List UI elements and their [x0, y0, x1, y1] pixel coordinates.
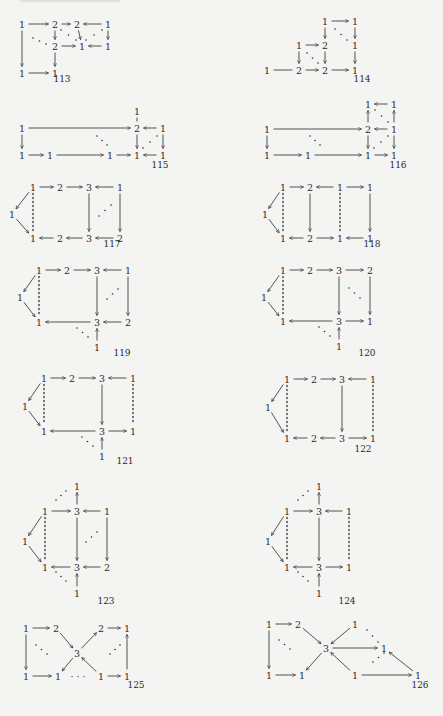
diagram-node: 1: [296, 40, 302, 51]
diagram-node: 2: [311, 374, 317, 385]
arrow-edge: [268, 302, 279, 316]
diagram-node: 1: [36, 317, 42, 328]
arrow-edge: [82, 657, 97, 671]
diagram-node: 1: [22, 401, 28, 412]
diagonal-dots-icon: [373, 135, 389, 149]
diagram-122: 123111231122: [265, 374, 376, 455]
arrow-edge: [78, 30, 80, 39]
diagram-canvas: 1221211111131112112211141121111111151112…: [0, 0, 443, 716]
diagram-node: 2: [307, 233, 313, 244]
diagram-node: 2: [104, 562, 110, 573]
diagram-number: 121: [116, 456, 133, 466]
diagram-node: 2: [134, 123, 140, 134]
diagram-number: 120: [358, 348, 375, 358]
diagram-120: 123211311120: [261, 265, 376, 359]
diagram-node: 1: [284, 562, 290, 573]
diagram-125: 1221311· · ·11125: [23, 623, 145, 691]
diagram-114: 111211221114: [264, 16, 371, 85]
diagonal-dots-icon: [35, 644, 48, 655]
diagram-node: 2: [296, 65, 302, 76]
diagram-node: 3: [94, 265, 100, 276]
diagram-node: 1: [47, 150, 53, 161]
diagram-node: 1: [19, 68, 25, 79]
diagram-node: 3: [316, 506, 322, 517]
diagram-node: 1: [42, 506, 48, 517]
diagram-node: 1: [19, 19, 25, 30]
diagonal-dots-icon: [366, 629, 379, 643]
diagram-node: 1: [105, 19, 111, 30]
diagram-node: 1: [367, 316, 373, 327]
arrow-edge: [16, 192, 29, 209]
diagram-node: 1: [17, 292, 23, 303]
diagram-node: 1: [55, 671, 61, 682]
arrow-edge: [268, 275, 280, 291]
diagram-node: 1: [79, 41, 85, 52]
diagram-node: 1: [130, 373, 136, 384]
diagram-node: 1: [284, 433, 290, 444]
diagram-node: 1: [41, 426, 47, 437]
diagram-node: 1: [299, 670, 305, 681]
diagonal-dots-icon: [106, 288, 119, 300]
diagram-node: 1: [367, 182, 373, 193]
diagram-node: 1: [337, 182, 343, 193]
diagram-node: 1: [30, 182, 36, 193]
diagonal-dots-icon: [76, 327, 89, 338]
diagram-119: 123111321119: [17, 265, 131, 359]
diagram-node: 1: [284, 374, 290, 385]
diagram-node: 1: [352, 16, 358, 27]
diagram-number: 113: [53, 74, 70, 84]
diagram-node: 3: [86, 233, 92, 244]
diagram-node: 1: [381, 643, 387, 654]
diagonal-dots-icon: [96, 135, 108, 146]
diagonal-dots-icon: [348, 287, 361, 299]
diagram-number: 114: [353, 74, 370, 84]
arrow-edge: [269, 219, 279, 233]
diagram-node: 3: [336, 316, 342, 327]
arrow-edge: [24, 275, 36, 291]
diagram-node: 1: [134, 106, 140, 117]
diagram-number: 118: [363, 239, 380, 249]
diagram-node: 1: [391, 99, 397, 110]
diagram-node: 1: [352, 670, 358, 681]
diagram-node: 3: [323, 643, 329, 654]
diagram-node: 1: [98, 671, 104, 682]
diagram-node: 3: [74, 562, 80, 573]
diagonal-dots-icon: [278, 639, 291, 650]
diagram-node: 1: [104, 506, 110, 517]
diagram-node: 1: [264, 124, 270, 135]
diagram-node: 3: [336, 265, 342, 276]
diagram-number: 124: [338, 596, 355, 606]
diagram-node: 1: [94, 342, 100, 353]
diagram-node: 2: [367, 265, 373, 276]
arrow-edge: [389, 652, 413, 671]
diagram-node: 1: [352, 619, 358, 630]
diagram-node: 1: [99, 451, 105, 462]
diagram-node: 3: [86, 182, 92, 193]
diagram-node: 2: [57, 182, 63, 193]
diagonal-dots-icon: [55, 571, 67, 582]
diagram-node: 2: [125, 317, 131, 328]
diagram-node: 1: [105, 41, 111, 52]
diagram-node: 2: [322, 65, 328, 76]
diagonal-dots-icon: [306, 52, 319, 64]
diagram-node: 1: [337, 233, 343, 244]
diagram-node: 1: [160, 123, 166, 134]
diagram-116: 111211111116: [264, 99, 407, 171]
diagram-node: 1: [316, 481, 322, 492]
diagram-node: 1: [22, 536, 28, 547]
diagonal-dots-icon: [372, 652, 385, 663]
diagonal-dots-icon: [81, 436, 94, 447]
diagram-node: 1: [264, 65, 270, 76]
arrow-edge: [331, 652, 350, 670]
diagram-node: 1: [130, 426, 136, 437]
diagram-node: 1: [42, 562, 48, 573]
diagram-node: 1: [117, 182, 123, 193]
diagram-node: 2: [307, 265, 313, 276]
page: 1221211111131112112211141121111111151112…: [0, 0, 443, 716]
diagram-node: 1: [9, 209, 15, 220]
diagram-node: 1: [365, 150, 371, 161]
diagonal-dots-icon: [297, 571, 309, 582]
diagram-node: 2: [52, 41, 58, 52]
diagonal-dots-icon: [142, 135, 158, 149]
diagram-node: 1: [36, 265, 42, 276]
